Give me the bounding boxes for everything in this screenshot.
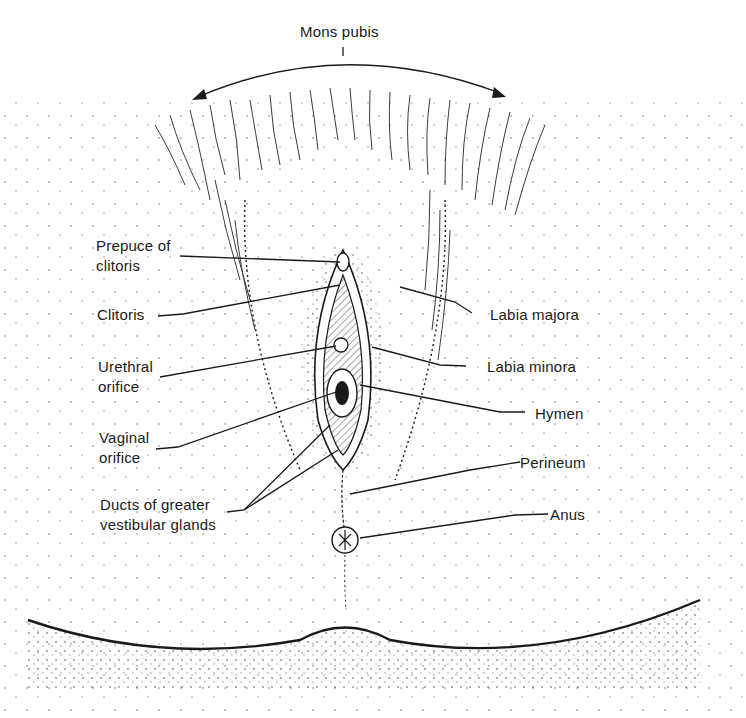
- label-urethral-orifice: Urethral orifice: [98, 357, 153, 397]
- label-hymen: Hymen: [535, 404, 584, 424]
- label-labia-majora: Labia majora: [490, 305, 579, 325]
- label-clitoris: Clitoris: [97, 305, 144, 325]
- mons-pubis-arc: [192, 47, 506, 100]
- label-anus: Anus: [550, 505, 585, 525]
- label-vaginal-orifice: Vaginal orifice: [99, 428, 149, 468]
- label-perineum: Perineum: [520, 453, 586, 473]
- label-mons-pubis: Mons pubis: [300, 22, 379, 42]
- label-ducts-of-greater-vestibular-glands: Ducts of greater vestibular glands: [100, 495, 216, 535]
- label-labia-minora: Labia minora: [487, 357, 576, 377]
- label-prepuce-of-clitoris: Prepuce of clitoris: [96, 236, 171, 276]
